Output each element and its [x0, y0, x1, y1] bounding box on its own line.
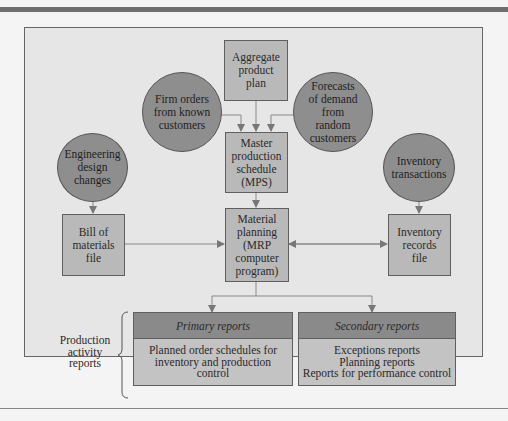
secondary-reports-body: Exceptions reports Planning reports Repo…	[303, 345, 451, 380]
production-activity-reports-label: Production activity reports	[55, 335, 115, 370]
primary-reports-box: Primary reports Planned order schedules …	[133, 312, 293, 386]
mps-box: Master production schedule (MPS)	[225, 132, 288, 193]
mrp-label: Material planning (MRP computer program)	[235, 213, 278, 278]
bottom-rule	[0, 408, 508, 409]
inventory-records-label: Inventory records file	[397, 226, 442, 265]
primary-reports-title: Primary reports	[134, 313, 292, 339]
aggregate-product-plan-label: Aggregate product plan	[232, 51, 280, 90]
mps-label: Master production schedule (MPS)	[232, 137, 282, 189]
inventory-transactions-circle: Inventory transactions	[383, 133, 455, 202]
engineering-changes-label: Engineering design changes	[64, 148, 120, 187]
secondary-reports-title: Secondary reports	[299, 313, 455, 339]
forecasts-label: Forecasts of demand from random customer…	[309, 80, 358, 145]
engineering-changes-circle: Engineering design changes	[57, 133, 128, 202]
bill-of-materials-box: Bill of materials file	[62, 214, 125, 276]
inventory-transactions-label: Inventory transactions	[392, 155, 447, 181]
bill-of-materials-label: Bill of materials file	[72, 226, 114, 265]
primary-reports-body: Planned order schedules for inventory an…	[149, 345, 277, 380]
aggregate-product-plan-box: Aggregate product plan	[224, 40, 288, 101]
forecasts-circle: Forecasts of demand from random customer…	[293, 72, 373, 152]
firm-orders-label: Firm orders from known customers	[154, 93, 211, 132]
inventory-records-box: Inventory records file	[388, 214, 451, 276]
firm-orders-circle: Firm orders from known customers	[142, 72, 222, 152]
mrp-box: Material planning (MRP computer program)	[225, 208, 289, 282]
secondary-reports-box: Secondary reports Exceptions reports Pla…	[298, 312, 456, 386]
